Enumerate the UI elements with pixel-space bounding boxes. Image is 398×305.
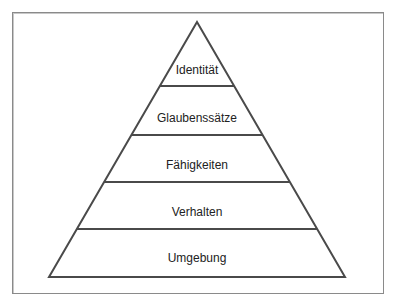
level-label-glaubenssaetze: Glaubenssätze <box>157 111 237 125</box>
level-label-verhalten: Verhalten <box>172 205 223 219</box>
level-label-umgebung: Umgebung <box>168 251 227 265</box>
pyramid-outline <box>49 22 345 277</box>
level-label-identitaet: Identität <box>176 63 219 77</box>
level-label-faehigkeiten: Fähigkeiten <box>166 158 228 172</box>
pyramid-diagram: Identität Glaubenssätze Fähigkeiten Verh… <box>0 0 398 305</box>
